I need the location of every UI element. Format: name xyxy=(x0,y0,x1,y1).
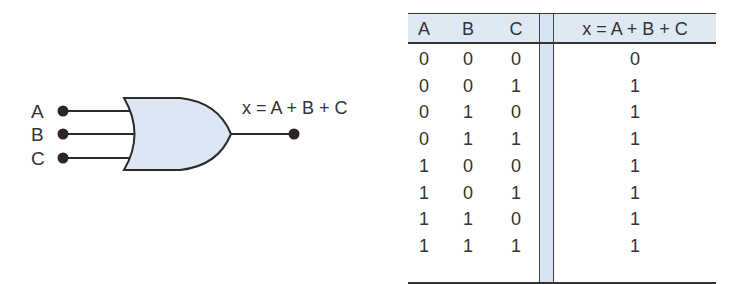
cell-b: 0 xyxy=(452,77,484,95)
table-header-rule xyxy=(408,42,716,44)
or-gate-symbol xyxy=(124,98,231,170)
cell-b: 1 xyxy=(452,103,484,121)
cell-a: 1 xyxy=(408,157,440,175)
terminal-dot-c xyxy=(58,153,69,164)
input-label-c: C xyxy=(31,149,45,168)
cell-a: 0 xyxy=(408,77,440,95)
column-divider xyxy=(539,14,554,282)
cell-c: 0 xyxy=(500,157,532,175)
cell-b: 0 xyxy=(452,50,484,68)
cell-output: 1 xyxy=(554,210,716,228)
cell-output: 1 xyxy=(554,103,716,121)
cell-c: 0 xyxy=(500,210,532,228)
cell-c: 1 xyxy=(500,184,532,202)
cell-output: 1 xyxy=(554,130,716,148)
cell-output: 1 xyxy=(554,77,716,95)
or-gate-diagram xyxy=(0,0,400,268)
cell-output: 1 xyxy=(554,157,716,175)
cell-output: 0 xyxy=(554,50,716,68)
cell-c: 0 xyxy=(500,103,532,121)
cell-a: 0 xyxy=(408,50,440,68)
cell-output: 1 xyxy=(554,184,716,202)
terminal-dot-b xyxy=(58,129,69,140)
cell-b: 0 xyxy=(452,157,484,175)
cell-c: 1 xyxy=(500,237,532,255)
terminal-dot-output xyxy=(289,129,300,140)
input-label-a: A xyxy=(31,102,44,121)
cell-a: 1 xyxy=(408,184,440,202)
cell-b: 0 xyxy=(452,184,484,202)
output-expression-label: x = A + B + C xyxy=(242,99,348,117)
header-output: x = A + B + C xyxy=(554,20,716,38)
cell-output: 1 xyxy=(554,237,716,255)
cell-c: 1 xyxy=(500,77,532,95)
header-c: C xyxy=(500,20,532,38)
cell-b: 1 xyxy=(452,130,484,148)
cell-a: 1 xyxy=(408,210,440,228)
cell-c: 1 xyxy=(500,130,532,148)
cell-b: 1 xyxy=(452,237,484,255)
cell-a: 0 xyxy=(408,103,440,121)
input-label-b: B xyxy=(31,125,44,144)
header-a: A xyxy=(408,20,440,38)
header-b: B xyxy=(452,20,484,38)
cell-b: 1 xyxy=(452,210,484,228)
cell-a: 1 xyxy=(408,237,440,255)
terminal-dot-a xyxy=(58,106,69,117)
table-bottom-rule xyxy=(408,282,716,284)
cell-a: 0 xyxy=(408,130,440,148)
cell-c: 0 xyxy=(500,50,532,68)
